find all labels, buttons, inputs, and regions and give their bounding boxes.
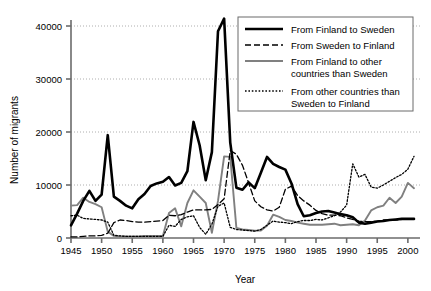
legend-label-3-line2: Sweden to Finland xyxy=(291,98,370,109)
y-tick-label-30000: 30000 xyxy=(36,74,62,85)
x-tick-label-1995: 1995 xyxy=(367,245,388,256)
y-tick-label-10000: 10000 xyxy=(36,180,62,191)
x-tick-label-1960: 1960 xyxy=(152,245,173,256)
x-tick-label-2000: 2000 xyxy=(397,245,418,256)
chart-canvas: 010000200003000040000 194519501955196019… xyxy=(0,0,431,291)
chart-legend: From Finland to SwedenFrom Sweden to Fin… xyxy=(238,17,413,111)
migration-line-chart: 010000200003000040000 194519501955196019… xyxy=(0,0,431,291)
x-tick-label-1970: 1970 xyxy=(214,245,235,256)
y-axis-title: Number of migrants xyxy=(9,96,20,184)
x-axis-title: Year xyxy=(235,274,256,285)
x-tick-label-1965: 1965 xyxy=(183,245,204,256)
x-tick-label-1980: 1980 xyxy=(275,245,296,256)
x-tick-label-1990: 1990 xyxy=(336,245,357,256)
legend-label-3-line1: From other countries than xyxy=(291,86,400,97)
x-tick-label-1985: 1985 xyxy=(305,245,326,256)
legend-label-1: From Sweden to Finland xyxy=(291,40,395,51)
legend-label-0: From Finland to Sweden xyxy=(291,24,395,35)
x-tick-label-1955: 1955 xyxy=(122,245,143,256)
x-tick-label-1975: 1975 xyxy=(244,245,265,256)
y-tick-label-0: 0 xyxy=(57,233,62,244)
y-tick-label-40000: 40000 xyxy=(36,21,62,32)
x-tick-label-1950: 1950 xyxy=(91,245,112,256)
legend-label-2-line2: countries than Sweden xyxy=(291,68,388,79)
y-tick-label-20000: 20000 xyxy=(36,127,62,138)
x-tick-label-1945: 1945 xyxy=(60,245,81,256)
legend-label-2-line1: From Finland to other xyxy=(291,56,382,67)
